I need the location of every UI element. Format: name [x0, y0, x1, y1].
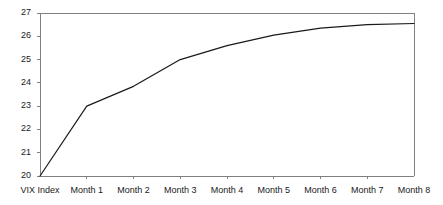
x-tick-label: VIX Index: [20, 185, 59, 195]
line-chart-plot: [0, 0, 443, 205]
data-series-line: [40, 23, 414, 176]
y-tick-label: 27: [5, 8, 31, 17]
x-tick-label: Month 7: [351, 185, 384, 195]
x-tick-label: Month 3: [164, 185, 197, 195]
y-tick-label: 20: [5, 171, 31, 180]
x-tick-label: Month 6: [304, 185, 337, 195]
x-tick-label: Month 4: [211, 185, 244, 195]
x-tick-label: Month 5: [257, 185, 290, 195]
x-tick-label: Month 8: [398, 185, 431, 195]
x-tick-label: Month 2: [117, 185, 150, 195]
plot-frame: [40, 13, 414, 176]
y-tick-label: 22: [5, 124, 31, 133]
y-tick-label: 25: [5, 55, 31, 64]
chart-container: 2021222324252627 VIX IndexMonth 1Month 2…: [0, 0, 443, 205]
x-tick-label: Month 1: [70, 185, 103, 195]
y-tick-label: 21: [5, 148, 31, 157]
y-tick-label: 26: [5, 31, 31, 40]
y-tick-label: 23: [5, 101, 31, 110]
y-tick-label: 24: [5, 78, 31, 87]
